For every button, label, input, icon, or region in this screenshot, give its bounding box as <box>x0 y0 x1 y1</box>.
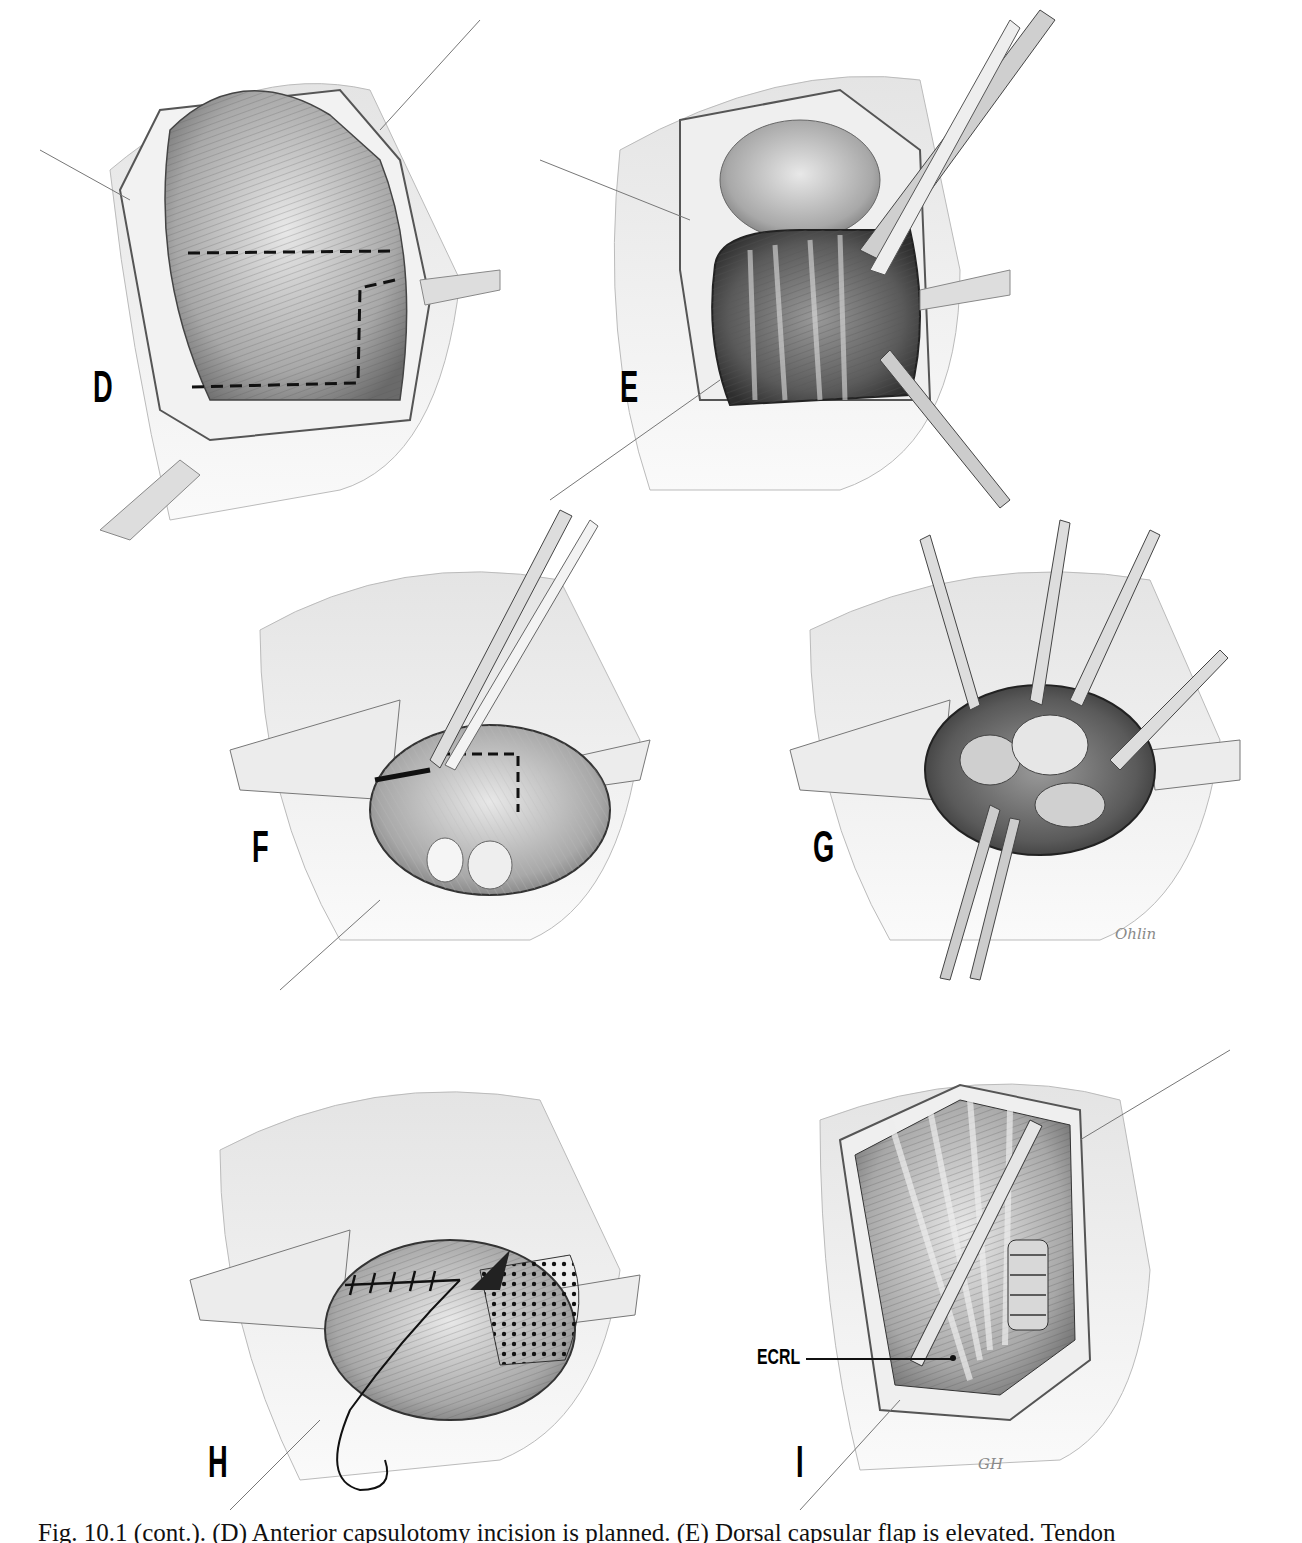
panel-e-illustration <box>540 20 1260 540</box>
surgical-illustration-e <box>540 20 1260 540</box>
panel-f-illustration <box>200 520 670 990</box>
panel-label-i: I <box>796 1440 804 1484</box>
panel-i-illustration <box>760 1040 1240 1510</box>
artist-signature-g: Ohlin <box>1115 925 1156 943</box>
surgical-illustration-d <box>40 20 510 540</box>
surgical-illustration-h <box>170 1040 670 1510</box>
artist-signature-i: GH <box>978 1455 1003 1473</box>
surgical-illustration-f <box>200 520 670 990</box>
panel-label-e: E <box>620 365 638 409</box>
panel-label-d: D <box>93 365 113 409</box>
panel-d-illustration <box>40 20 510 540</box>
surgical-illustration-g <box>770 520 1270 990</box>
panel-label-h: H <box>208 1440 228 1484</box>
figure-caption: Fig. 10.1 (cont.). (D) Anterior capsulot… <box>38 1518 1278 1543</box>
panel-h-illustration <box>170 1040 670 1510</box>
panel-g-illustration <box>770 520 1270 990</box>
panel-label-g: G <box>813 825 834 869</box>
annotation-leader-line <box>806 1358 954 1360</box>
panel-label-f: F <box>252 825 269 869</box>
annotation-leader-dot <box>950 1355 956 1361</box>
annotation-label-ecrl: ECRL <box>757 1346 800 1368</box>
surgical-illustration-i <box>760 1040 1240 1510</box>
